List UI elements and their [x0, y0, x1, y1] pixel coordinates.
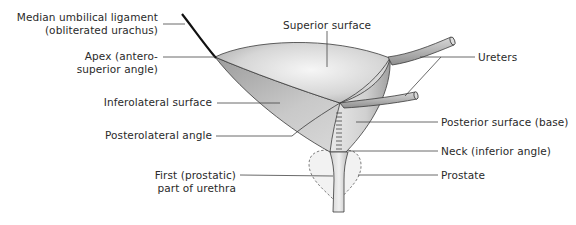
label-prostate: Prostate: [441, 169, 485, 182]
label-posterolateral-angle: Posterolateral angle: [0, 129, 212, 142]
label-text: Apex (antero-: [0, 50, 158, 63]
label-median-umbilical-ligament: Median umbilical ligament (obliterated u…: [0, 11, 158, 37]
label-first-part-urethra: First (prostatic) part of urethra: [0, 169, 236, 195]
label-superior-surface: Superior surface: [283, 19, 371, 32]
label-text: Neck (inferior angle): [441, 145, 551, 158]
ureter-upper: [388, 36, 456, 65]
label-apex: Apex (antero- superior angle): [0, 50, 158, 76]
label-text: part of urethra: [0, 182, 236, 195]
label-ureters: Ureters: [478, 51, 517, 64]
label-text: superior angle): [0, 63, 158, 76]
label-inferolateral-surface: Inferolateral surface: [0, 96, 212, 109]
label-neck: Neck (inferior angle): [441, 145, 551, 158]
label-text: First (prostatic): [0, 169, 236, 182]
label-text: Posterolateral angle: [0, 129, 212, 142]
label-text: Ureters: [478, 51, 517, 64]
label-text: Posterior surface (base): [441, 116, 569, 129]
label-text: Median umbilical ligament: [0, 11, 158, 24]
label-text: Prostate: [441, 169, 485, 182]
label-text: Inferolateral surface: [0, 96, 212, 109]
median-umbilical-ligament-cord: [182, 14, 216, 58]
label-text: (obliterated urachus): [0, 24, 158, 37]
label-text: Superior surface: [283, 19, 371, 32]
label-posterior-surface: Posterior surface (base): [441, 116, 569, 129]
